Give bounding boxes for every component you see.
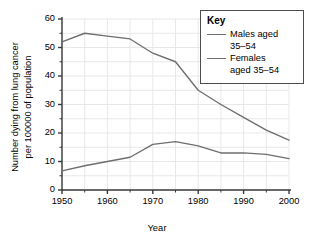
y-axis-tick-label: 20 <box>33 127 55 137</box>
legend-label-males: Males aged35–54 <box>230 29 278 52</box>
y-axis-tick-label: 10 <box>33 156 55 166</box>
legend-label-males-line1: Males aged <box>230 29 278 39</box>
y-axis-tick-label: 0 <box>33 184 55 194</box>
x-axis-tick-label: 1990 <box>227 196 261 206</box>
y-axis-tick-label: 30 <box>33 99 55 109</box>
y-axis-label-line1: Number dying from lung cancer <box>9 18 22 196</box>
x-axis-tick-label: 2000 <box>272 196 306 206</box>
legend-key-box: Key Males aged35–54 Femalesaged 35–54 <box>200 10 304 84</box>
x-axis-label: Year <box>0 223 314 233</box>
legend-label-males-line2: 35–54 <box>230 41 256 51</box>
x-axis-tick-label: 1970 <box>136 196 170 206</box>
legend-title: Key <box>207 15 303 27</box>
legend-label-females: Femalesaged 35–54 <box>230 53 279 76</box>
legend-item-females: Femalesaged 35–54 <box>207 53 303 76</box>
y-axis-tick-label: 60 <box>33 13 55 23</box>
legend-item-males: Males aged35–54 <box>207 29 303 52</box>
y-axis-tick-label: 40 <box>33 70 55 80</box>
legend-label-females-line2: aged 35–54 <box>230 65 279 75</box>
x-axis-tick-label: 1950 <box>45 196 79 206</box>
x-axis-tick-label: 1980 <box>181 196 215 206</box>
legend-line-swatch-females <box>207 53 226 64</box>
lung-cancer-mortality-line-chart: Number dying from lung cancer per 100000… <box>0 0 314 244</box>
legend-line-swatch-males <box>207 29 226 40</box>
y-axis-tick-label: 50 <box>33 42 55 52</box>
legend-label-females-line1: Females <box>230 53 266 63</box>
x-axis-tick-label: 1960 <box>90 196 124 206</box>
